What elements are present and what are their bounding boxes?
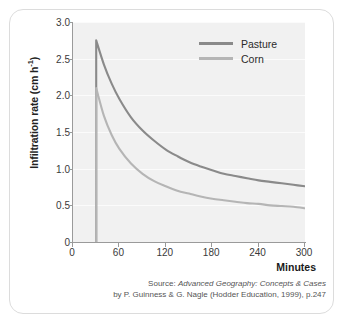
legend-label-pasture: Pasture xyxy=(241,38,277,50)
chart-legend: Pasture Corn xyxy=(199,36,303,66)
source-title: Advanced Geography: Concepts & Cases xyxy=(178,279,326,288)
y-tick-mark xyxy=(69,169,73,170)
y-tick-label: 1.0 xyxy=(36,163,70,174)
x-tick-mark xyxy=(165,243,166,247)
x-tick-label: 240 xyxy=(249,247,266,258)
y-tick-mark xyxy=(69,59,73,60)
legend-label-corn: Corn xyxy=(241,53,264,65)
y-tick-label: 2.5 xyxy=(36,53,70,64)
y-tick-mark xyxy=(69,242,73,243)
x-tick-mark xyxy=(118,243,119,247)
y-tick-label: 3.0 xyxy=(36,17,70,28)
y-tick-label: 1.5 xyxy=(36,127,70,138)
legend-swatch-pasture xyxy=(199,42,233,45)
legend-swatch-corn xyxy=(199,57,233,60)
y-tick-mark xyxy=(69,205,73,206)
plot-area: Pasture Corn xyxy=(73,22,305,242)
y-tick-mark xyxy=(69,95,73,96)
x-tick-label: 0 xyxy=(69,247,75,258)
y-tick-label: 2.0 xyxy=(36,90,70,101)
curve-pasture xyxy=(96,40,305,242)
chart-figure: Infiltration rate (cm h-1) Pasture Corn … xyxy=(10,10,335,315)
y-axis-ticks: 00.51.01.52.02.53.0 xyxy=(32,22,70,243)
x-tick-mark xyxy=(304,243,305,247)
y-tick-mark xyxy=(69,22,73,23)
x-tick-mark xyxy=(72,243,73,247)
source-line-2: by P. Guinness & G. Nagle (Hodder Educat… xyxy=(10,289,326,300)
x-tick-label: 60 xyxy=(113,247,124,258)
x-axis-label: Minutes xyxy=(10,261,316,273)
x-tick-label: 180 xyxy=(203,247,220,258)
x-tick-mark xyxy=(211,243,212,247)
x-tick-label: 120 xyxy=(156,247,173,258)
chart-card: Infiltration rate (cm h-1) Pasture Corn … xyxy=(9,9,334,314)
x-axis-ticks: 060120180240300 xyxy=(72,243,306,261)
source-prefix: Source: xyxy=(148,279,178,288)
source-line-1: Source: Advanced Geography: Concepts & C… xyxy=(10,278,326,289)
source-attribution: Source: Advanced Geography: Concepts & C… xyxy=(10,278,326,300)
x-tick-label: 300 xyxy=(296,247,313,258)
y-tick-mark xyxy=(69,132,73,133)
legend-item-pasture: Pasture xyxy=(199,36,303,51)
y-tick-label: 0.5 xyxy=(36,200,70,211)
y-tick-label: 0 xyxy=(36,237,70,248)
legend-item-corn: Corn xyxy=(199,51,303,66)
x-tick-mark xyxy=(258,243,259,247)
